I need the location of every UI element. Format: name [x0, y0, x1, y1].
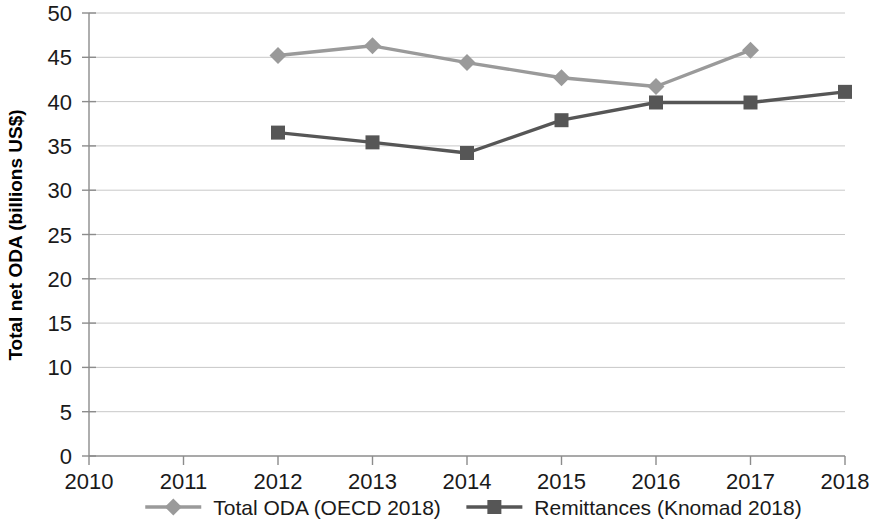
y-tick-label: 15 — [48, 311, 72, 336]
legend-label: Remittances (Knomad 2018) — [534, 496, 801, 519]
x-tick-label: 2015 — [537, 469, 586, 494]
legend-swatch-marker — [165, 499, 182, 516]
x-tick-label: 2013 — [348, 469, 397, 494]
x-tick-label: 2016 — [632, 469, 681, 494]
y-tick-label: 10 — [48, 355, 72, 380]
data-point-marker — [555, 113, 569, 127]
x-tick-label: 2012 — [254, 469, 303, 494]
chart-figure: 05101520253035404550 2010201120122013201… — [0, 0, 875, 528]
data-point-marker — [364, 37, 381, 54]
y-tick-label: 45 — [48, 45, 72, 70]
gridlines — [89, 13, 845, 412]
data-series — [270, 37, 853, 160]
y-tick-label: 30 — [48, 178, 72, 203]
y-tick-label: 0 — [60, 444, 72, 469]
data-point-marker — [649, 95, 663, 109]
y-tick-label: 20 — [48, 267, 72, 292]
chart-legend: Total ODA (OECD 2018)Remittances (Knomad… — [145, 496, 801, 519]
y-axis-title: Total net ODA (billions US$) — [5, 109, 26, 360]
data-point-marker — [366, 135, 380, 149]
data-point-marker — [271, 126, 285, 140]
y-tick-label: 25 — [48, 223, 72, 248]
y-tick-label: 40 — [48, 90, 72, 115]
x-tick-label: 2011 — [160, 469, 207, 494]
legend-swatch-marker — [487, 500, 501, 514]
data-point-marker — [648, 78, 665, 95]
x-tick-labels: 201020112012201320142015201620172018 — [65, 469, 870, 494]
data-point-marker — [838, 85, 852, 99]
data-point-marker — [459, 54, 476, 71]
x-tick-label: 2014 — [443, 469, 492, 494]
x-tick-label: 2010 — [65, 469, 114, 494]
data-point-marker — [460, 146, 474, 160]
x-tick-label: 2017 — [726, 469, 775, 494]
data-point-marker — [742, 42, 759, 59]
x-tick-label: 2018 — [821, 469, 870, 494]
y-tick-label: 50 — [48, 1, 72, 26]
series-line — [278, 46, 751, 87]
data-point-marker — [270, 47, 287, 64]
axes — [82, 13, 845, 465]
data-point-marker — [744, 95, 758, 109]
y-tick-label: 35 — [48, 134, 72, 159]
y-axis-title-text: Total net ODA (billions US$) — [5, 109, 26, 360]
legend-label: Total ODA (OECD 2018) — [213, 496, 441, 519]
y-tick-labels: 05101520253035404550 — [48, 1, 72, 469]
data-point-marker — [553, 69, 570, 86]
y-tick-label: 5 — [60, 400, 72, 425]
line-chart-canvas: 05101520253035404550 2010201120122013201… — [0, 0, 875, 528]
